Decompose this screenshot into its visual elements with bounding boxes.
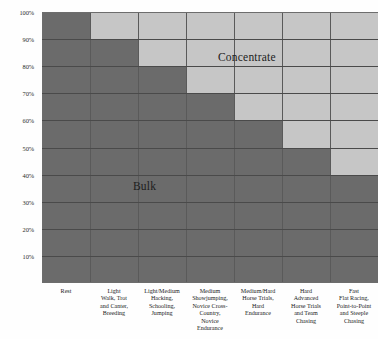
bar-column (91, 13, 139, 282)
x-tick-label: FastFlat Racing,Point-to-Pointand Steepl… (330, 288, 378, 325)
y-tick-label: 10% (23, 252, 34, 259)
bar-segment-bulk (139, 67, 186, 282)
bar-segment-concentrate (139, 13, 186, 67)
y-tick-label: 60% (23, 117, 34, 124)
x-tick-label-line: Hacking, (151, 295, 173, 301)
y-tick-label: 50% (23, 144, 34, 151)
x-tick-label: Medium/HardHorse Trials,HardEndurance (234, 288, 282, 318)
bar-segment-bulk (283, 149, 330, 283)
x-tick-label-line: Fast (349, 288, 359, 294)
x-tick-label: MediumShowjumping,Novice Cross-Country,N… (186, 288, 234, 332)
x-tick-label-line: Novice (201, 318, 219, 324)
x-tick-label-line: Breeding (103, 310, 125, 316)
y-tick-label: 100% (19, 9, 34, 16)
x-tick-label-line: Advanced (294, 295, 319, 301)
x-tick-label-line: Horse Trials (291, 303, 321, 309)
x-tick-label-line: Showjumping, (192, 295, 228, 301)
x-tick-label-line: Jumping (152, 310, 173, 316)
y-tick-label: 40% (23, 171, 34, 178)
bar-column (283, 13, 331, 282)
x-tick-label-line: Rest (61, 288, 72, 294)
x-tick-label-line: Light/Medium (144, 288, 180, 294)
x-tick-label-line: Flat Racing, (339, 295, 369, 301)
y-tick-label: 90% (23, 36, 34, 43)
x-tick-label: LightWalk, Trotand Canter,Breeding (90, 288, 138, 318)
x-tick-label-line: Endurance (245, 310, 271, 316)
stacked-bar-chart: 100% 90% 80% 70% 60% 50% 40% 30% 20% 10%… (0, 0, 378, 339)
bar-segment-concentrate (331, 13, 378, 176)
bar-column (331, 13, 378, 282)
bar-column (139, 13, 187, 282)
bar-segment-concentrate (91, 13, 138, 40)
x-tick-label-line: Horse Trials, (242, 295, 274, 301)
bar-segment-concentrate (283, 13, 330, 149)
x-tick-label-line: Hard (252, 303, 264, 309)
concentrate-series-label: Concentrate (218, 51, 276, 63)
y-tick-label: 70% (23, 90, 34, 97)
x-tick-label-line: and Canter, (100, 303, 128, 309)
x-axis: RestLightWalk, Trotand Canter,BreedingLi… (42, 288, 378, 339)
x-tick-label: Light/MediumHacking,Schooling,Jumping (138, 288, 186, 318)
x-tick-label-line: Point-to-Point (337, 303, 372, 309)
x-tick-label-line: Hard (300, 288, 312, 294)
x-tick-label-line: Country, (199, 310, 220, 316)
x-tick-label-line: Schooling, (149, 303, 175, 309)
bar-segment-bulk (43, 13, 90, 282)
x-tick-label: HardAdvancedHorse Trialsand TeamChasing (282, 288, 330, 325)
y-tick-label: 80% (23, 63, 34, 70)
y-tick-label: 20% (23, 225, 34, 232)
x-tick-label: Rest (42, 288, 90, 295)
bar-segment-bulk (235, 121, 282, 282)
bar-segment-bulk (187, 94, 234, 282)
x-tick-label-line: and Team (294, 310, 318, 316)
x-tick-label-line: Walk, Trot (101, 295, 127, 301)
bar-segment-concentrate (235, 13, 282, 121)
y-tick-label: 30% (23, 198, 34, 205)
bar-column (43, 13, 91, 282)
x-tick-label-line: Novice Cross- (192, 303, 227, 309)
plot-area (42, 12, 378, 283)
y-axis: 100% 90% 80% 70% 60% 50% 40% 30% 20% 10% (0, 12, 38, 283)
x-tick-label-line: and Steeple (340, 310, 368, 316)
x-tick-label-line: Chasing (344, 318, 364, 324)
bar-segment-bulk (331, 176, 378, 282)
x-tick-label-line: Endurance (197, 325, 223, 331)
x-tick-label-line: Light (107, 288, 120, 294)
x-tick-label-line: Chasing (296, 318, 316, 324)
bar-segment-bulk (91, 40, 138, 282)
bulk-series-label: Bulk (133, 180, 156, 192)
x-tick-label-line: Medium (200, 288, 221, 294)
x-tick-label-line: Medium/Hard (241, 288, 276, 294)
